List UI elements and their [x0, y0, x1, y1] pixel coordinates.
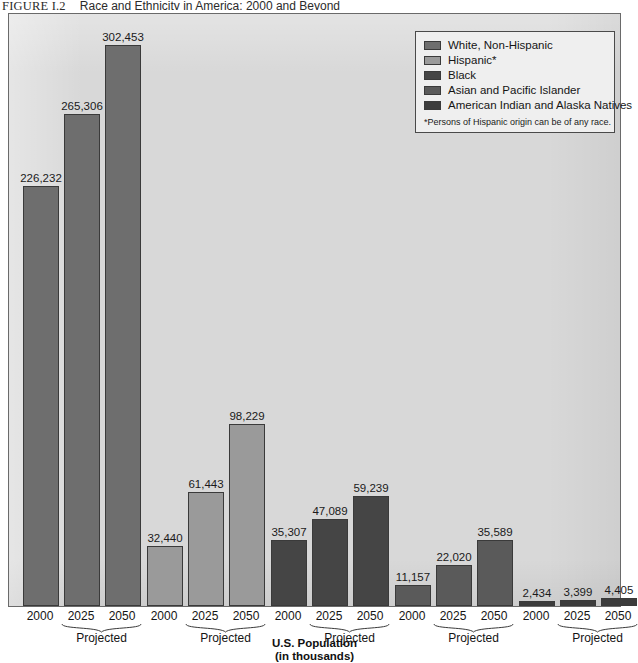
- bar-group-item: 32,440: [147, 526, 183, 606]
- axis-title: U.S. Population (in thousands): [0, 637, 629, 662]
- bar: [395, 585, 431, 606]
- bar-group-item: 302,453: [105, 25, 141, 606]
- x-tick-label: 2050: [481, 609, 508, 623]
- legend-item: Asian and Pacific Islander: [424, 83, 606, 98]
- bar-group-item: 226,232: [23, 166, 59, 606]
- bar-group-item: 47,089: [312, 499, 348, 606]
- bar-group-item: 61,443: [188, 472, 224, 606]
- x-tick-label: 2000: [523, 609, 550, 623]
- x-tick-label: 2000: [275, 609, 302, 623]
- bar-value-label: 98,229: [229, 410, 264, 422]
- legend-swatch-icon: [424, 56, 441, 65]
- bar-value-label: 47,089: [312, 505, 347, 517]
- legend-item-label: White, Non-Hispanic: [448, 39, 553, 52]
- bar-group-item: 35,589: [477, 520, 513, 606]
- x-tick-label: 2025: [316, 609, 343, 623]
- bar-value-label: 3,399: [564, 586, 593, 598]
- bar-group-item: 4,405: [601, 578, 637, 606]
- bar-group-item: 11,157: [395, 565, 431, 606]
- axis-title-line-1: U.S. Population: [0, 637, 629, 650]
- figure-title: Race and Ethnicity in America: 2000 and …: [80, 0, 340, 10]
- bar-group-item: 22,020: [436, 545, 472, 606]
- figure-number: FIGURE I.2: [2, 0, 66, 10]
- bar-group-item: 2,434: [519, 581, 555, 606]
- bar-value-label: 61,443: [188, 478, 223, 490]
- bar-group-item: 3,399: [560, 580, 596, 606]
- bar: [312, 519, 348, 606]
- legend-swatch-icon: [424, 41, 441, 50]
- legend-swatch-icon: [424, 86, 441, 95]
- bar-group-item: 35,307: [271, 520, 307, 606]
- legend-swatch-icon: [424, 71, 441, 80]
- legend-rows: White, Non-HispanicHispanic*BlackAsian a…: [424, 38, 606, 113]
- bar: [229, 424, 265, 606]
- bar-group-item: 59,239: [353, 476, 389, 606]
- bar-group-item: 98,229: [229, 404, 265, 606]
- bar: [601, 598, 637, 606]
- x-tick-label: 2050: [605, 609, 632, 623]
- legend-footnote: *Persons of Hispanic origin can be of an…: [424, 117, 606, 127]
- bar-value-label: 302,453: [102, 31, 144, 43]
- bar: [353, 496, 389, 606]
- x-tick-label: 2025: [440, 609, 467, 623]
- legend-item: American Indian and Alaska Natives: [424, 98, 606, 113]
- bar: [188, 492, 224, 606]
- bar: [477, 540, 513, 606]
- bar-value-label: 32,440: [147, 532, 182, 544]
- legend-swatch-icon: [424, 101, 441, 110]
- x-tick-label: 2050: [357, 609, 384, 623]
- bar-value-label: 2,434: [523, 587, 552, 599]
- bar-value-label: 59,239: [353, 482, 388, 494]
- x-tick-label: 2025: [564, 609, 591, 623]
- axis-title-line-2: (in thousands): [0, 650, 629, 663]
- x-tick-label: 2000: [27, 609, 54, 623]
- bar: [64, 114, 100, 606]
- x-tick-label: 2050: [109, 609, 136, 623]
- chart-plot-area: 226,232265,306302,45332,44061,44398,2293…: [8, 13, 621, 607]
- bar: [147, 546, 183, 606]
- bar-group-item: 265,306: [64, 94, 100, 606]
- bar-value-label: 22,020: [436, 551, 471, 563]
- bar-value-label: 35,589: [477, 526, 512, 538]
- legend-item-label: Hispanic*: [448, 54, 497, 67]
- bar-value-label: 265,306: [61, 100, 103, 112]
- bar: [560, 600, 596, 606]
- x-tick-label: 2050: [233, 609, 260, 623]
- bar-value-label: 11,157: [396, 571, 430, 583]
- legend-item-label: Black: [448, 69, 476, 82]
- bar: [23, 186, 59, 606]
- legend-item: Black: [424, 68, 606, 83]
- bar-value-label: 226,232: [20, 172, 62, 184]
- x-tick-label: 2025: [192, 609, 219, 623]
- bar: [436, 565, 472, 606]
- bar: [519, 601, 555, 606]
- bar-value-label: 4,405: [605, 584, 634, 596]
- legend-item: Hispanic*: [424, 53, 606, 68]
- bar: [271, 540, 307, 606]
- x-tick-label: 2000: [399, 609, 426, 623]
- legend-item-label: American Indian and Alaska Natives: [448, 99, 632, 112]
- bar: [105, 45, 141, 606]
- legend-item-label: Asian and Pacific Islander: [448, 84, 580, 97]
- x-tick-label: 2000: [151, 609, 178, 623]
- figure-caption: FIGURE I.2Race and Ethnicity in America:…: [2, 0, 340, 10]
- legend-item: White, Non-Hispanic: [424, 38, 606, 53]
- chart-legend: White, Non-HispanicHispanic*BlackAsian a…: [415, 31, 615, 133]
- x-tick-label: 2025: [68, 609, 95, 623]
- bar-value-label: 35,307: [271, 526, 306, 538]
